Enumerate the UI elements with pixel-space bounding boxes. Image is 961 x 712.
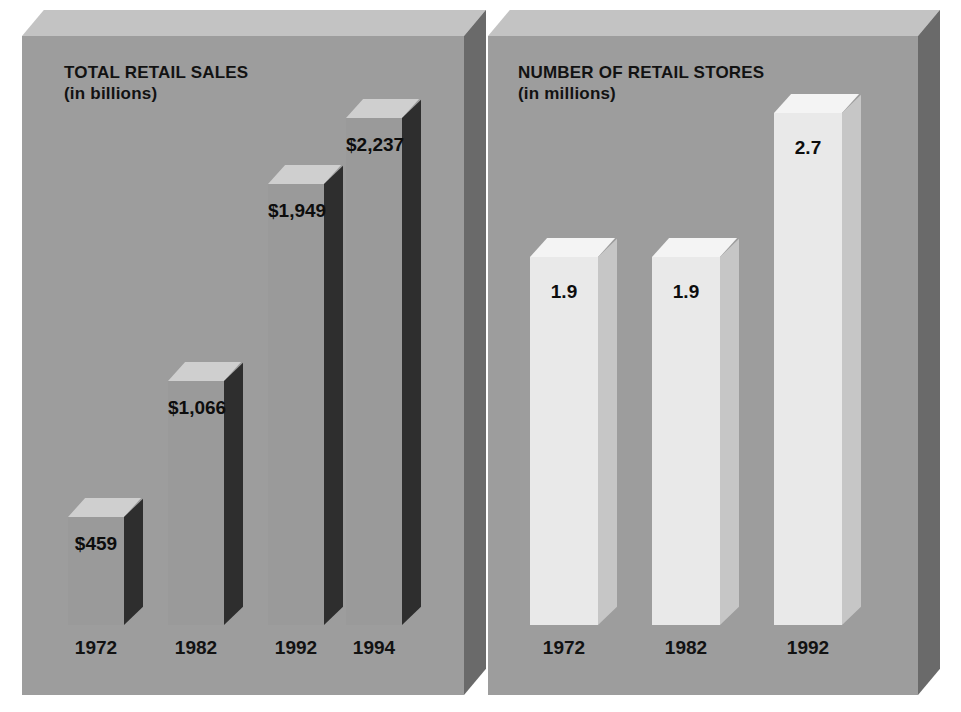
chart-title-line-1: TOTAL RETAIL SALES [64, 62, 248, 83]
axis-label-1982: 1982 [168, 637, 224, 659]
bar-1982: $1,066 [168, 381, 224, 625]
chart-number-of-retail-stores: NUMBER OF RETAIL STORES (in millions) 1.… [488, 36, 918, 695]
bar-value-label: $1,949 [268, 200, 324, 222]
chart-title-total-retail-sales: TOTAL RETAIL SALES (in billions) [64, 62, 248, 105]
bar-front-face [774, 113, 842, 625]
bar-1994: $2,237 [346, 118, 402, 625]
chart-total-retail-sales: TOTAL RETAIL SALES (in billions) $459 19… [22, 36, 464, 695]
bar-value-label: $2,237 [346, 134, 402, 156]
panel-top-face [22, 10, 486, 36]
bar-value-label: $459 [68, 533, 124, 555]
axis-label-1992: 1992 [774, 637, 842, 659]
axis-label-1972: 1972 [530, 637, 598, 659]
bar-front-face [530, 257, 598, 625]
bar-front-face [268, 184, 324, 625]
bar-front-face [652, 257, 720, 625]
axis-label-1992: 1992 [268, 637, 324, 659]
bar-value-label: 2.7 [774, 137, 842, 159]
bar-value-label: $1,066 [168, 397, 224, 419]
panel-top-face [488, 10, 940, 36]
chart-title-line-1: NUMBER OF RETAIL STORES [518, 62, 764, 83]
bar-side-face [842, 95, 861, 625]
bar-side-face [124, 499, 143, 625]
axis-label-1994: 1994 [346, 637, 402, 659]
panel-side-face [464, 10, 486, 695]
chart-title-line-2: (in billions) [64, 83, 248, 105]
bar-1992: 2.7 [774, 113, 842, 625]
panel-side-face [918, 10, 940, 695]
panel-total-retail-sales: TOTAL RETAIL SALES (in billions) $459 19… [22, 36, 464, 695]
axis-label-1982: 1982 [652, 637, 720, 659]
bar-side-face [324, 166, 343, 625]
bar-front-face [346, 118, 402, 625]
bar-value-label: 1.9 [530, 281, 598, 303]
bar-side-face [224, 363, 243, 625]
axis-label-1972: 1972 [68, 637, 124, 659]
bar-1982: 1.9 [652, 257, 720, 625]
bar-side-face [720, 239, 739, 625]
bar-side-face [402, 100, 421, 625]
bar-value-label: 1.9 [652, 281, 720, 303]
panel-number-of-retail-stores: NUMBER OF RETAIL STORES (in millions) 1.… [488, 36, 918, 695]
chart-title-line-2: (in millions) [518, 83, 764, 105]
bar-1972: $459 [68, 517, 124, 625]
bar-1992: $1,949 [268, 184, 324, 625]
bar-side-face [598, 239, 617, 625]
bar-1972: 1.9 [530, 257, 598, 625]
chart-title-number-of-retail-stores: NUMBER OF RETAIL STORES (in millions) [518, 62, 764, 105]
figure-canvas: TOTAL RETAIL SALES (in billions) $459 19… [0, 0, 961, 712]
